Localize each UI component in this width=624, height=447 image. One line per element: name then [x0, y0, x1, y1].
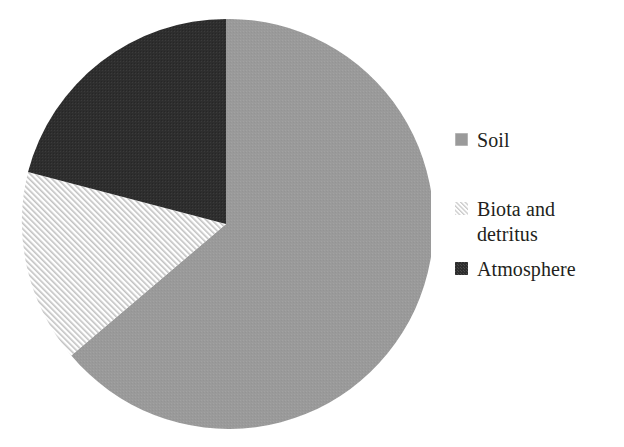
- solid-gray-swatch-icon: [455, 133, 468, 146]
- legend-label-atmosphere: Atmosphere: [477, 257, 576, 282]
- pie-chart-plot-area: [21, 19, 431, 429]
- legend: Soil Biota and detritus: [455, 128, 620, 282]
- legend-label-soil: Soil: [477, 128, 510, 153]
- pie-chart-figure: Soil Biota and detritus: [0, 0, 624, 447]
- legend-label-biota-and-detritus: Biota and detritus: [477, 197, 555, 247]
- hatched-swatch-icon: [455, 202, 468, 215]
- pie-chart-svg: [21, 19, 431, 429]
- legend-item-atmosphere[interactable]: Atmosphere: [455, 257, 620, 282]
- legend-item-biota-and-detritus[interactable]: Biota and detritus: [455, 197, 620, 247]
- solid-dark-swatch-icon: [455, 262, 468, 275]
- legend-item-soil[interactable]: Soil: [455, 128, 620, 153]
